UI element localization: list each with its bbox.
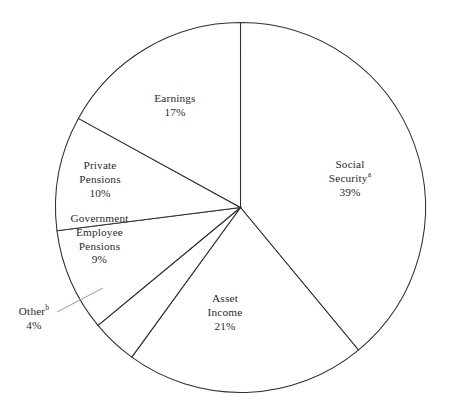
- pie-label-private-pensions-name-line1: Private: [55, 159, 145, 173]
- pie-label-social-security-name-line2: Securitya: [305, 172, 395, 186]
- pie-label-social-security-name-line1: Social: [305, 158, 395, 172]
- pie-label-other-value: 4%: [3, 319, 65, 333]
- pie-label-private-pensions-value: 10%: [55, 187, 145, 201]
- pie-label-private-pensions: Private Pensions 10%: [55, 159, 145, 200]
- pie-label-asset-income-name-line1: Asset: [180, 292, 270, 306]
- pie-chart-canvas: [0, 0, 453, 407]
- pie-label-private-pensions-name-line2: Pensions: [55, 173, 145, 187]
- pie-label-asset-income-name-line2: Income: [180, 306, 270, 320]
- pie-label-gov-pensions-value: 9%: [47, 253, 152, 267]
- pie-label-other-name: Otherb: [3, 305, 65, 319]
- pie-label-asset-income: Asset Income 21%: [180, 292, 270, 333]
- footnote-marker-b: b: [45, 303, 49, 312]
- pie-label-gov-pensions-name-line1: Government: [47, 212, 152, 226]
- pie-label-earnings-name: Earnings: [130, 92, 220, 106]
- pie-label-government-employee-pensions: Government Employee Pensions 9%: [47, 212, 152, 267]
- pie-label-gov-pensions-name-line2: Employee: [47, 226, 152, 240]
- pie-label-earnings: Earnings 17%: [130, 92, 220, 120]
- pie-label-other: Otherb 4%: [3, 305, 65, 333]
- pie-label-earnings-value: 17%: [130, 106, 220, 120]
- pie-label-social-security: Social Securitya 39%: [305, 158, 395, 199]
- pie-label-asset-income-value: 21%: [180, 320, 270, 334]
- pie-slices: [56, 23, 426, 393]
- pie-chart: Social Securitya 39% Earnings 17% Privat…: [0, 0, 453, 407]
- footnote-marker-a: a: [368, 170, 372, 179]
- pie-label-social-security-value: 39%: [305, 186, 395, 200]
- pie-label-gov-pensions-name-line3: Pensions: [47, 240, 152, 254]
